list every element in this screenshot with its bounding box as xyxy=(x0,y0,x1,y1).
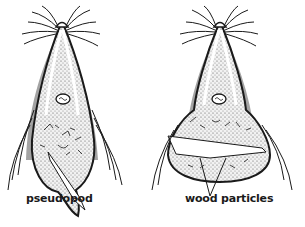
wood-particles-label: wood particles xyxy=(185,192,273,205)
left-cell xyxy=(8,6,122,216)
right-cell xyxy=(152,6,292,196)
figure: pseudopod wood particles xyxy=(0,0,305,227)
pseudopod-label: pseudopod xyxy=(26,192,93,205)
